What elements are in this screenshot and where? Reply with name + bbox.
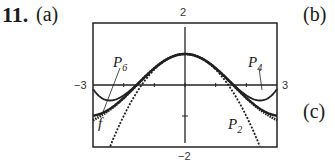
p6-label: P6 [113,54,127,73]
taylor-chart [0,0,335,164]
p4-label: P4 [248,54,262,73]
f-label: f [98,115,102,132]
p2-label: P2 [228,116,242,135]
